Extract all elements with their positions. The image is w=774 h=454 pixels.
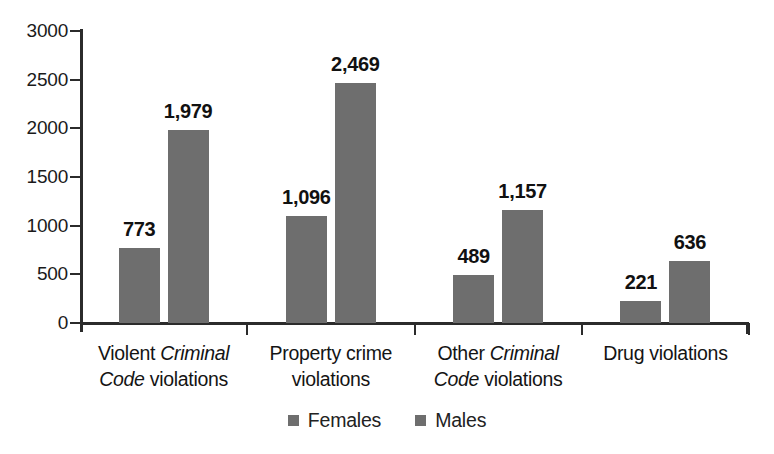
bar-chart: 050010001500200025003000 7731,9791,0962,… — [0, 0, 774, 454]
bar-value-label: 636 — [639, 231, 740, 254]
bar-value-label: 1,979 — [138, 100, 239, 123]
y-axis-tick-label: 3000 — [6, 20, 68, 42]
y-axis-tick-label: 1500 — [6, 166, 68, 188]
bar-males-3[interactable] — [502, 210, 543, 323]
bar-males-4[interactable] — [669, 261, 710, 323]
bar-females-3[interactable] — [453, 275, 494, 323]
plot-area: 050010001500200025003000 7731,9791,0962,… — [0, 0, 774, 454]
y-axis-tick-mark — [70, 79, 81, 81]
category-label: Other CriminalCode violations — [415, 340, 582, 392]
y-axis-tick-mark — [70, 30, 81, 32]
y-axis-tick-label: 0 — [6, 312, 68, 334]
bar-males-1[interactable] — [168, 130, 209, 323]
square-swatch-icon — [415, 415, 426, 426]
bar-value-label: 2,469 — [305, 53, 406, 76]
y-axis-tick-mark — [70, 127, 81, 129]
y-axis-line — [80, 29, 83, 332]
category-separator-tick — [581, 323, 583, 335]
bar-males-2[interactable] — [335, 83, 376, 323]
category-separator-tick — [748, 323, 750, 335]
category-label: Violent CriminalCode violations — [80, 340, 247, 392]
y-axis-tick-mark — [70, 225, 81, 227]
legend-label: Males — [435, 409, 486, 432]
bar-females-4[interactable] — [620, 301, 661, 323]
bar-value-label: 1,157 — [472, 180, 573, 203]
legend: FemalesMales — [0, 409, 774, 432]
bar-females-1[interactable] — [119, 248, 160, 323]
y-axis-tick-label: 1000 — [6, 215, 68, 237]
legend-label: Females — [308, 409, 381, 432]
y-axis-tick-mark — [70, 273, 81, 275]
legend-item-males[interactable]: Males — [415, 409, 486, 432]
y-axis-tick-label: 2000 — [6, 117, 68, 139]
square-swatch-icon — [288, 415, 299, 426]
y-axis-tick-label: 2500 — [6, 69, 68, 91]
category-label: Property crimeviolations — [247, 340, 414, 392]
legend-item-females[interactable]: Females — [288, 409, 381, 432]
y-axis-tick-mark — [70, 322, 81, 324]
y-axis-tick-label: 500 — [6, 263, 68, 285]
bar-females-2[interactable] — [286, 216, 327, 323]
y-axis-tick-mark — [70, 176, 81, 178]
category-separator-tick — [246, 323, 248, 335]
category-label: Drug violations — [582, 340, 749, 366]
category-separator-tick — [414, 323, 416, 335]
